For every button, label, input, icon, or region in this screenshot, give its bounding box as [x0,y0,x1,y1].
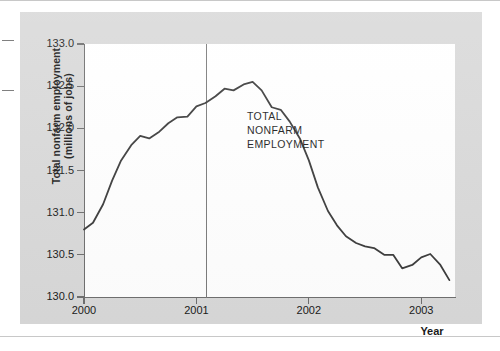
y-tick-label: 131.0 [26,206,74,218]
x-tick-label: 2000 [54,304,114,316]
y-tick-label: 132.5 [26,79,74,91]
margin-tick-upper [2,40,14,41]
figure-panel: Total nonfarm employment (millions of jo… [20,12,482,324]
series-annotation-line1: TOTAL [247,109,325,123]
margin-tick-lower [2,90,14,91]
y-tick-label: 132.0 [26,121,74,133]
y-tick-mark [77,43,84,44]
series-line-chart [84,44,455,297]
x-axis-line [84,297,456,298]
y-tick-mark [77,86,84,87]
y-tick-label: 130.0 [26,290,74,302]
series-annotation: TOTAL NONFARM EMPLOYMENT [247,109,325,151]
y-tick-mark [77,254,84,255]
y-tick-mark [77,212,84,213]
x-tick-label: 2003 [391,304,451,316]
y-tick-mark [77,170,84,171]
x-tick-label: 2001 [166,304,226,316]
series-annotation-line3: EMPLOYMENT [247,137,325,151]
y-tick-label: 130.5 [26,248,74,260]
y-tick-label: 133.0 [26,37,74,49]
page-rule-top [0,0,500,1]
series-annotation-line2: NONFARM [247,123,325,137]
y-tick-mark [77,128,84,129]
x-tick-label: 2002 [279,304,339,316]
figure-page: Total nonfarm employment (millions of jo… [0,0,500,351]
y-tick-label: 131.5 [26,164,74,176]
x-axis-title: Year [402,325,462,337]
